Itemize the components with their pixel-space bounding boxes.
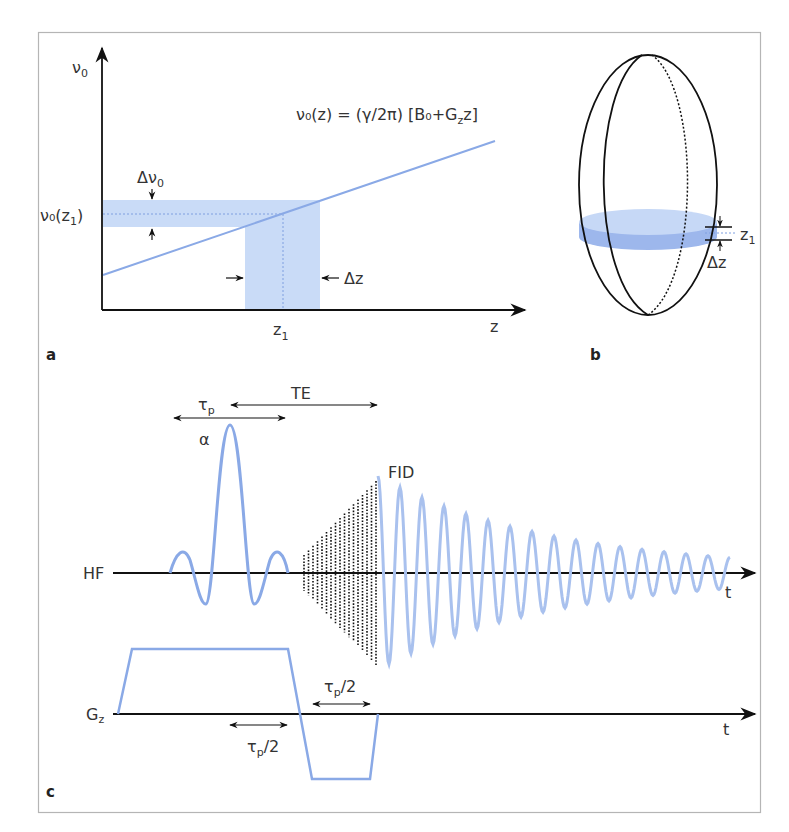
te-label: TE [290,384,311,403]
delta-nu-label: Δν0 [137,168,164,190]
ellipsoid-outline [579,55,717,315]
fid-signal [378,476,730,664]
panel-a: ν0 ν₀(z1) Δν0 ν₀(z) = (γ/2π) [B₀+Gzz] Δz… [40,48,525,364]
x-axis-label: z [490,317,498,336]
nu-z1-label: ν₀(z1) [40,206,83,228]
figure-frame [39,33,761,813]
y-axis-label: ν0 [72,58,88,80]
slice-disk-top [579,209,717,235]
panel-c: τp TE α FID HF t τp/2 τp/2 Gz t c [46,384,755,801]
panel-label-b: b [590,346,601,364]
panel-label-c: c [46,783,55,801]
panel-label-a: a [46,346,56,364]
gradient-time-label: t [723,720,729,739]
alpha-label: α [199,430,210,449]
tau-p-half-label-2: τp/2 [324,677,356,699]
slice-z1-label: z1 [740,225,755,247]
tau-p-half-label-1: τp/2 [247,737,279,759]
equation-label: ν₀(z) = (γ/2π) [B₀+Gzz] [296,105,478,127]
hf-axis-label: HF [83,564,104,583]
slice-delta-z-label: Δz [707,253,726,272]
ellipsoid-meridian-front [604,55,648,315]
rf-sinc-pulse [170,425,288,604]
z1-label: z1 [273,320,288,343]
gz-axis-label: Gz [86,705,104,726]
ellipsoid-meridian-back [648,55,688,315]
mri-slice-selection-figure: ν0 ν₀(z1) Δν0 ν₀(z) = (γ/2π) [B₀+Gzz] Δz… [0,0,789,832]
delta-z-label: Δz [344,269,363,288]
fid-label: FID [388,463,414,482]
tau-p-label: τp [198,395,215,417]
panel-b: z1 Δz b [579,55,755,364]
rf-time-label: t [725,583,731,602]
